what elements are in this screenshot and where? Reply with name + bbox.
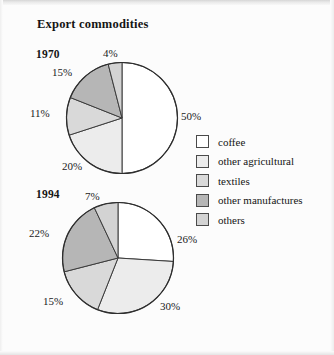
- scan-edge-right: [330, 0, 334, 355]
- legend-item-textiles: textiles: [196, 171, 303, 190]
- chart-title: Export commodities: [37, 17, 149, 32]
- scan-edge-left: [0, 0, 3, 355]
- legend: coffeeother agriculturaltextilesother ma…: [196, 132, 303, 230]
- legend-label: textiles: [218, 175, 250, 187]
- legend-swatch-icon: [196, 135, 209, 148]
- pie-slice-label-1994-textiles: 15%: [43, 295, 63, 307]
- pie-slice-label-1970-other-manufactures: 15%: [52, 66, 72, 78]
- legend-item-other-agricultural: other agricultural: [196, 152, 303, 171]
- pie-slice-coffee: [118, 203, 173, 262]
- legend-swatch-icon: [196, 194, 209, 207]
- pie-chart-1970: [65, 61, 179, 175]
- pie-slice-label-1970-other-agricultural: 20%: [62, 160, 82, 172]
- legend-label: others: [218, 214, 245, 226]
- legend-swatch-icon: [196, 213, 209, 226]
- pie-chart-1994: [61, 201, 175, 315]
- scan-edge-top: [0, 0, 334, 5]
- legend-label: other manufactures: [218, 194, 303, 206]
- figure-page: Export commodities 1970 50% 20% 11% 15% …: [0, 0, 334, 355]
- pie-slice-label-1970-coffee: 50%: [181, 110, 201, 122]
- scan-edge-bottom: [0, 351, 334, 355]
- pie-slice-label-1994-other-manufactures: 22%: [29, 227, 49, 239]
- legend-label: coffee: [218, 136, 245, 148]
- panel-year-label-1994: 1994: [36, 188, 60, 200]
- legend-item-other-manufactures: other manufactures: [196, 191, 303, 210]
- legend-label: other agricultural: [218, 155, 294, 167]
- legend-swatch-icon: [196, 174, 209, 187]
- pie-slice-coffee: [122, 63, 178, 174]
- panel-year-label-1970: 1970: [36, 48, 60, 60]
- pie-slice-label-1994-other-agricultural: 30%: [160, 300, 180, 312]
- pie-slice-label-1994-coffee: 26%: [177, 233, 197, 245]
- pie-svg-1994: [61, 201, 175, 315]
- legend-item-coffee: coffee: [196, 132, 303, 151]
- pie-slice-label-1994-others: 7%: [85, 190, 100, 202]
- pie-svg-1970: [65, 61, 179, 175]
- pie-slice-label-1970-others: 4%: [103, 47, 118, 59]
- legend-swatch-icon: [196, 155, 209, 168]
- pie-slice-label-1970-textiles: 11%: [30, 107, 50, 119]
- legend-item-others: others: [196, 210, 303, 229]
